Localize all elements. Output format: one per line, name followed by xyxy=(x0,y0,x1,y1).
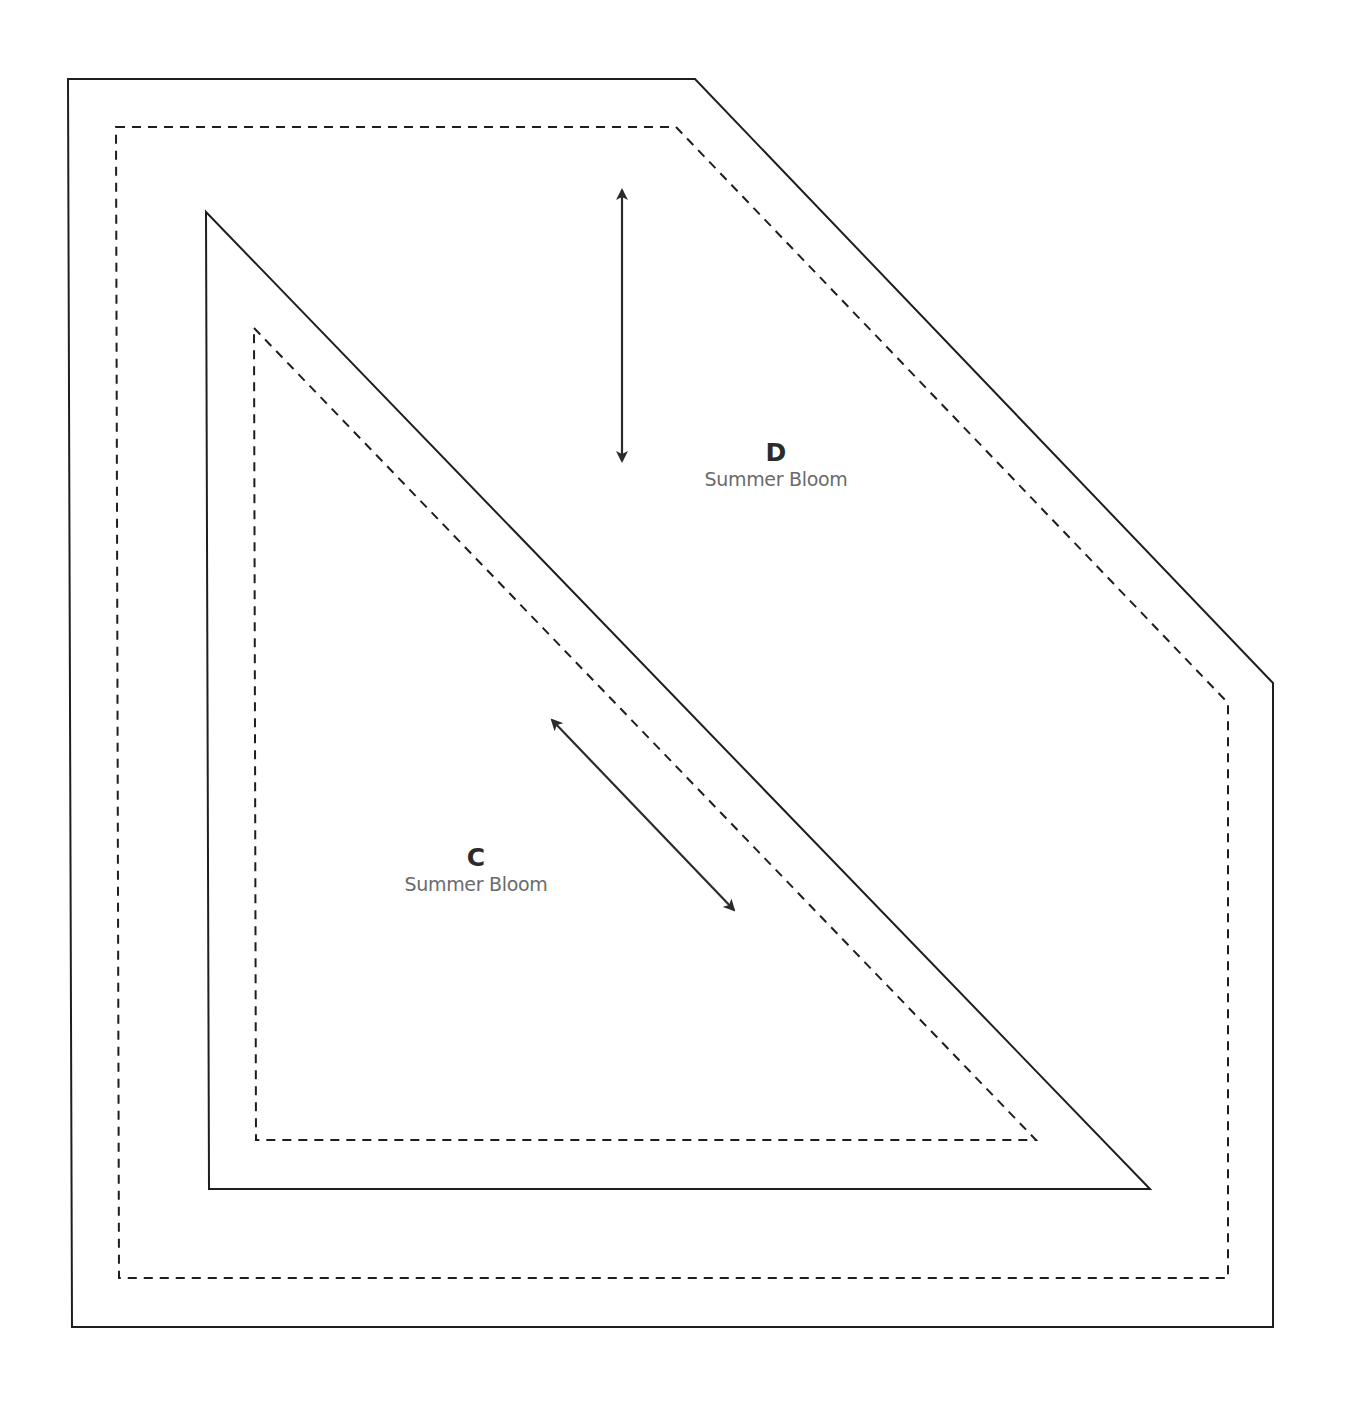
piece-c-grain-arrow-icon xyxy=(552,720,734,910)
piece-c-letter: C xyxy=(404,843,547,873)
piece-d-seam-line xyxy=(116,127,1228,1278)
piece-c-cut-line xyxy=(206,212,1150,1189)
piece-c-seam-line xyxy=(254,328,1036,1140)
piece-c-label: C Summer Bloom xyxy=(404,843,547,895)
piece-d-letter: D xyxy=(704,438,847,468)
piece-d-fabric-name: Summer Bloom xyxy=(704,468,847,490)
piece-c-fabric-name: Summer Bloom xyxy=(404,873,547,895)
piece-d-label: D Summer Bloom xyxy=(704,438,847,490)
pattern-diagram xyxy=(0,0,1350,1405)
